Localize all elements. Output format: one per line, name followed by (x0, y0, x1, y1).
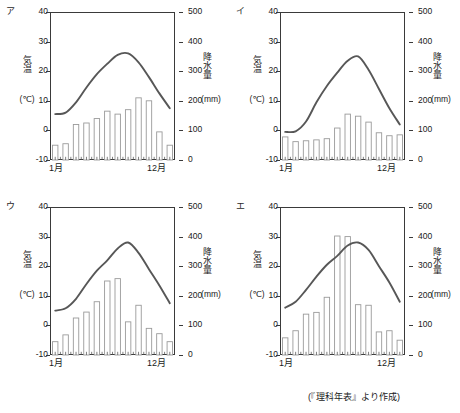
precipitation-bar (94, 119, 99, 160)
precipitation-bar (345, 237, 350, 355)
chart-svg-i (230, 0, 460, 196)
precipitation-bar (345, 114, 350, 160)
chart-svg-u (0, 195, 230, 391)
precipitation-bar (397, 135, 402, 160)
precipitation-bar (94, 302, 99, 355)
precipitation-bar (105, 281, 110, 355)
panel-a: ア 403020100-10 5004003002001000 気温 (℃) 降… (0, 0, 230, 196)
precipitation-bar (146, 328, 151, 355)
precipitation-bar (314, 312, 319, 355)
source-attribution: (『理科年表』より作成) (308, 392, 400, 403)
precipitation-bar (335, 128, 340, 160)
precipitation-bar (84, 123, 89, 160)
chart-svg-a (0, 0, 230, 196)
panel-u: ウ 403020100-10 5004003002001000 気温 (℃) 降… (0, 195, 230, 391)
precipitation-bar (105, 111, 110, 160)
temperature-line (55, 53, 170, 114)
x-axis-ticks-e (285, 352, 400, 355)
precipitation-bar (303, 314, 308, 355)
precipitation-bar (376, 332, 381, 355)
precipitation-bar (115, 279, 120, 355)
precipitation-bar (73, 318, 78, 355)
precipitation-bar (355, 305, 360, 355)
panel-i: イ 403020100-10 5004003002001000 気温 (℃) 降… (230, 0, 460, 196)
chart-svg-e (230, 195, 460, 391)
x-axis-ticks-a (55, 157, 170, 160)
precipitation-bar (366, 305, 371, 355)
panel-e: エ 403020100-10 5004003002001000 気温 (℃) 降… (230, 195, 460, 391)
precipitation-bar (387, 331, 392, 355)
precipitation-bar (324, 297, 329, 355)
climograph-figure: ア 403020100-10 5004003002001000 気温 (℃) 降… (0, 0, 460, 413)
temperature-line (55, 242, 170, 310)
precipitation-bar (136, 98, 141, 160)
temperature-line (285, 242, 400, 307)
precipitation-bar (136, 305, 141, 355)
bar-series-i (283, 114, 403, 160)
bar-series-u (53, 279, 173, 355)
precipitation-bar (376, 133, 381, 160)
x-axis-ticks-i (285, 157, 400, 160)
precipitation-bar (125, 110, 130, 160)
precipitation-bar (387, 136, 392, 160)
precipitation-bar (366, 122, 371, 160)
precipitation-bar (115, 114, 120, 160)
x-axis-ticks-u (55, 352, 170, 355)
precipitation-bar (73, 124, 78, 160)
precipitation-bar (157, 132, 162, 160)
precipitation-bar (293, 331, 298, 355)
precipitation-bar (355, 116, 360, 160)
precipitation-bar (283, 137, 288, 160)
precipitation-bar (146, 101, 151, 160)
precipitation-bar (125, 322, 130, 355)
temperature-line (285, 56, 400, 132)
precipitation-bar (84, 312, 89, 355)
